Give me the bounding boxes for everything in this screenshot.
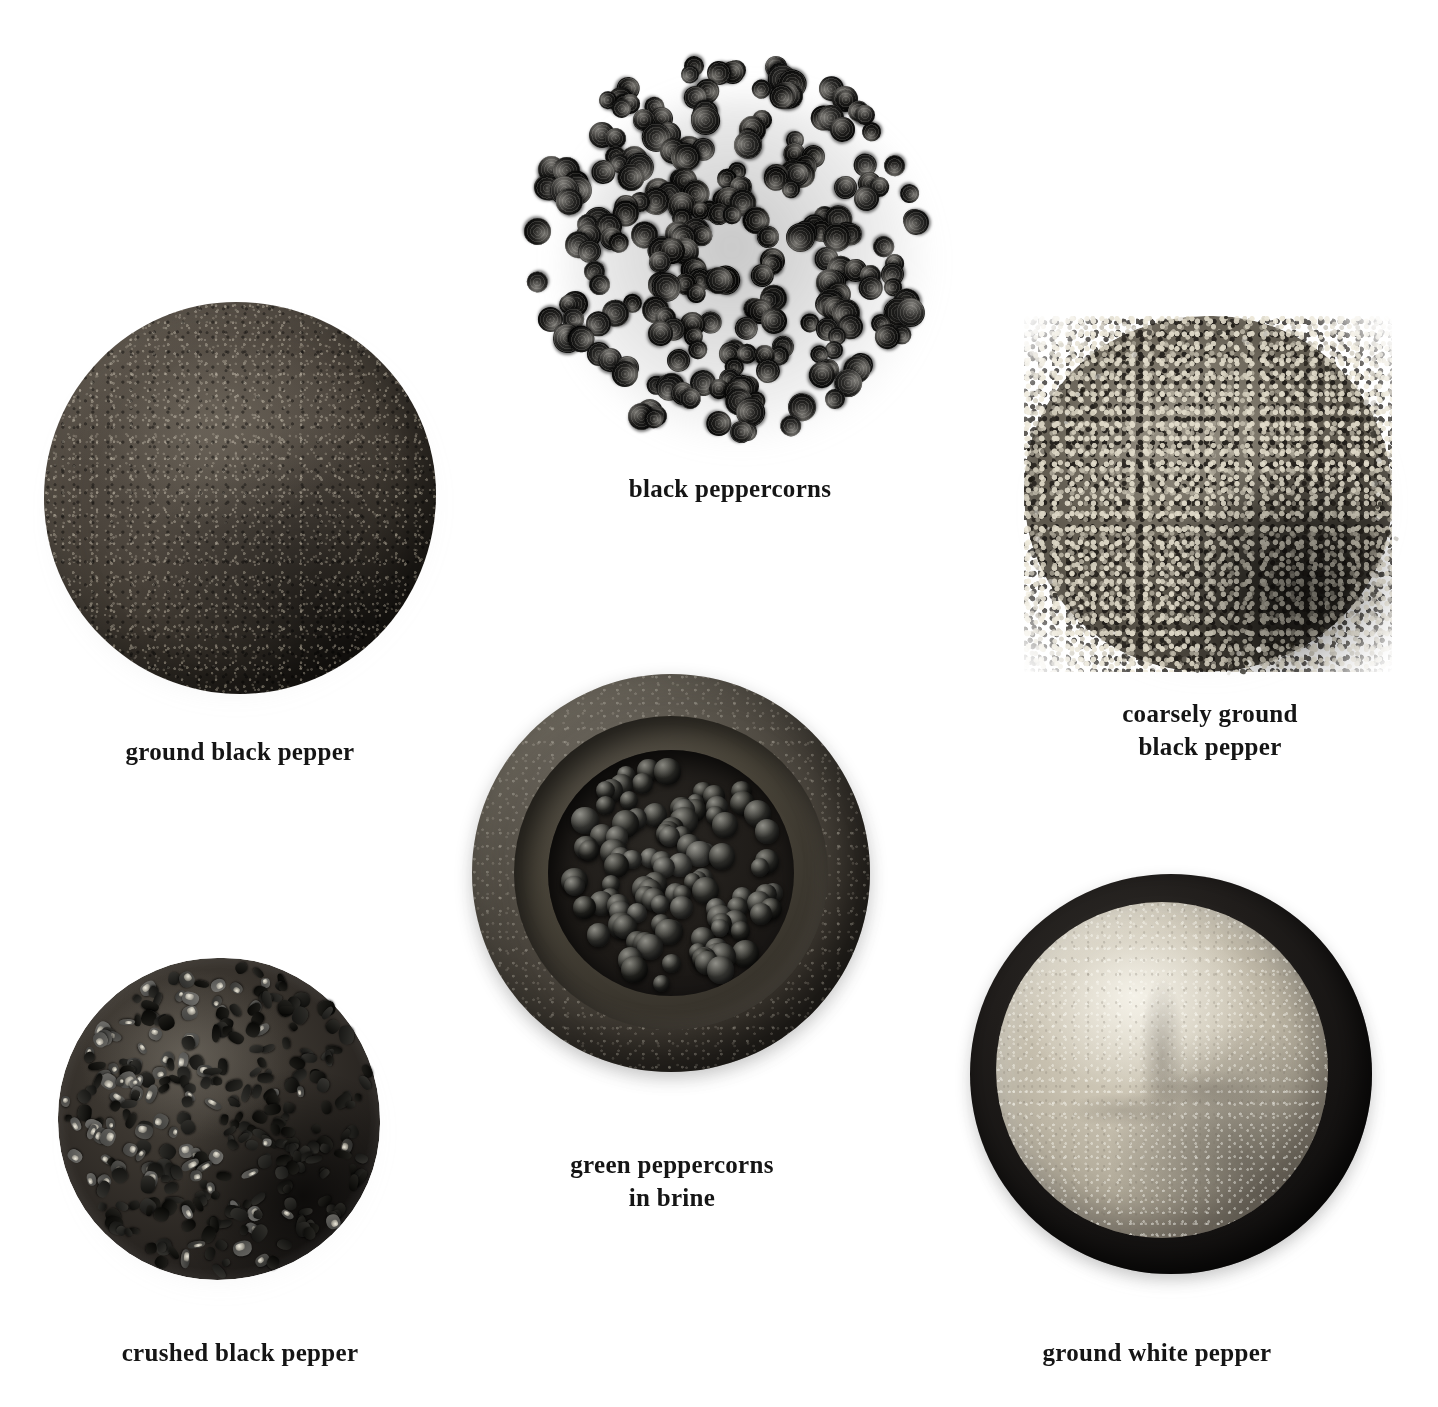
coarsely-ground-shading: [1024, 316, 1392, 672]
caption-crushed-black-pepper: crushed black pepper: [40, 1336, 440, 1369]
caption-ground-black-pepper: ground black pepper: [40, 735, 440, 768]
ground-black-pepper-heap: [44, 302, 436, 694]
caption-green-peppercorns-in-brine: green peppercorns in brine: [470, 1148, 874, 1215]
specimen-coarsely-ground-black-pepper: [1014, 312, 1406, 684]
caption-coarsely-ground-black-pepper: coarsely ground black pepper: [1010, 697, 1410, 764]
specimen-ground-black-pepper: [44, 302, 436, 698]
green-peppercorns-cluster: [548, 750, 794, 996]
specimen-plate: ground black pepper black peppercorns co…: [0, 0, 1438, 1407]
caption-ground-white-pepper: ground white pepper: [955, 1336, 1359, 1369]
specimen-crushed-black-pepper: [46, 952, 396, 1300]
ground-white-pepper-ridges: [996, 902, 1328, 1238]
specimen-black-peppercorns: [520, 52, 940, 452]
caption-black-peppercorns: black peppercorns: [520, 472, 940, 505]
specimen-ground-white-pepper: [962, 872, 1382, 1290]
specimen-green-peppercorns-in-brine: [466, 672, 878, 1084]
